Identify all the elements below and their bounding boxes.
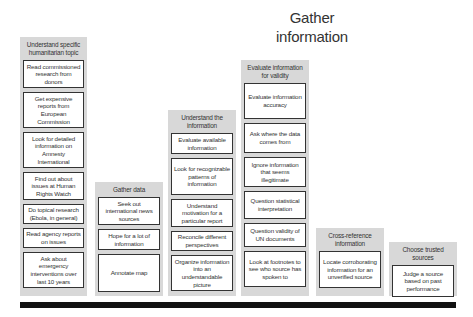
column-heading: Understand the information	[171, 112, 233, 133]
task-card: Organize information into an understanda…	[171, 255, 233, 291]
task-card: Annotate map	[98, 254, 160, 292]
task-card: Look for detailed information on Amnesty…	[23, 132, 84, 168]
column-evaluate-validity: Evaluate information for validity Evalua…	[241, 60, 309, 296]
task-card: Locate corroborating information for an …	[319, 251, 381, 288]
column-heading: Cross-reference information	[319, 230, 381, 251]
task-card: Do topical research (Ebola, in general)	[23, 204, 84, 224]
task-card: Ignore information that seems illegitima…	[244, 157, 306, 187]
task-card: Find out about issues at Human Rights Wa…	[23, 172, 84, 200]
column-cross-reference: Cross-reference information Locate corro…	[316, 228, 384, 296]
task-card: Reconcile different perspectives	[171, 231, 233, 251]
baseline-bar	[20, 302, 456, 308]
column-heading: Evaluate information for validity	[244, 62, 306, 83]
column-gather-data: Gather data Seek out international news …	[95, 182, 163, 296]
task-card: Evaluate information accuracy	[244, 83, 306, 119]
column-understand-information: Understand the information Evaluate avai…	[168, 110, 236, 296]
task-card: Evaluate available information	[171, 133, 233, 154]
column-understand-topic: Understand specific humanitarian topic R…	[20, 37, 87, 296]
task-card: Read commissioned research from donors	[23, 60, 84, 88]
task-card: Question statistical interpretation	[244, 191, 306, 219]
column-choose-trusted-sources: Choose trusted sources Judge a source ba…	[389, 242, 457, 296]
task-card: Hope for a lot of information	[98, 229, 160, 250]
diagram-title: Gather information	[262, 8, 362, 46]
task-card: Get expensive reports from European Comm…	[23, 92, 84, 128]
column-heading: Choose trusted sources	[392, 244, 454, 265]
task-card: Question validity of UN documents	[244, 223, 306, 247]
task-card: Look for recognizable patterns of inform…	[171, 158, 233, 195]
task-card: Seek out international news sources	[98, 197, 160, 225]
column-heading: Understand specific humanitarian topic	[23, 39, 84, 60]
task-card: Judge a source based on past performance	[392, 265, 454, 297]
task-card: Understand motivation for a particular r…	[171, 199, 233, 227]
task-card: Ask about emergency interventions over l…	[23, 252, 84, 288]
column-heading: Gather data	[98, 184, 160, 197]
task-card: Read agency reports on issues	[23, 228, 84, 248]
task-card: Look at footnotes to see who source has …	[244, 251, 306, 287]
task-card: Ask where the data comes from	[244, 123, 306, 153]
